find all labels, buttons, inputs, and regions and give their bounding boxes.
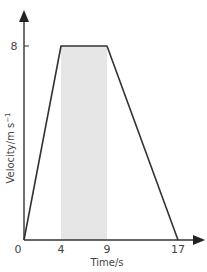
y-axis-label-group: Velocity/m s−1 [4,112,16,183]
x-tick-label-0: 0 [15,243,22,256]
x-axis-arrow-icon [193,235,205,245]
x-tick-label-17: 17 [171,243,185,256]
y-axis-label: Velocity/m s [5,123,16,184]
x-tick-label-9: 9 [104,243,111,256]
shaded-area [61,46,107,240]
y-axis-label-exponent: −1 [4,112,12,122]
y-axis-arrow-icon [19,10,29,22]
x-axis-label: Time/s [89,257,123,268]
svg-text:Velocity/m s−1: Velocity/m s−1 [4,112,16,183]
velocity-time-graph: 8 0 4 9 17 Time/s Velocity/m s−1 [0,0,207,272]
x-tick-label-4: 4 [58,243,65,256]
y-tick-label-8: 8 [11,40,18,53]
